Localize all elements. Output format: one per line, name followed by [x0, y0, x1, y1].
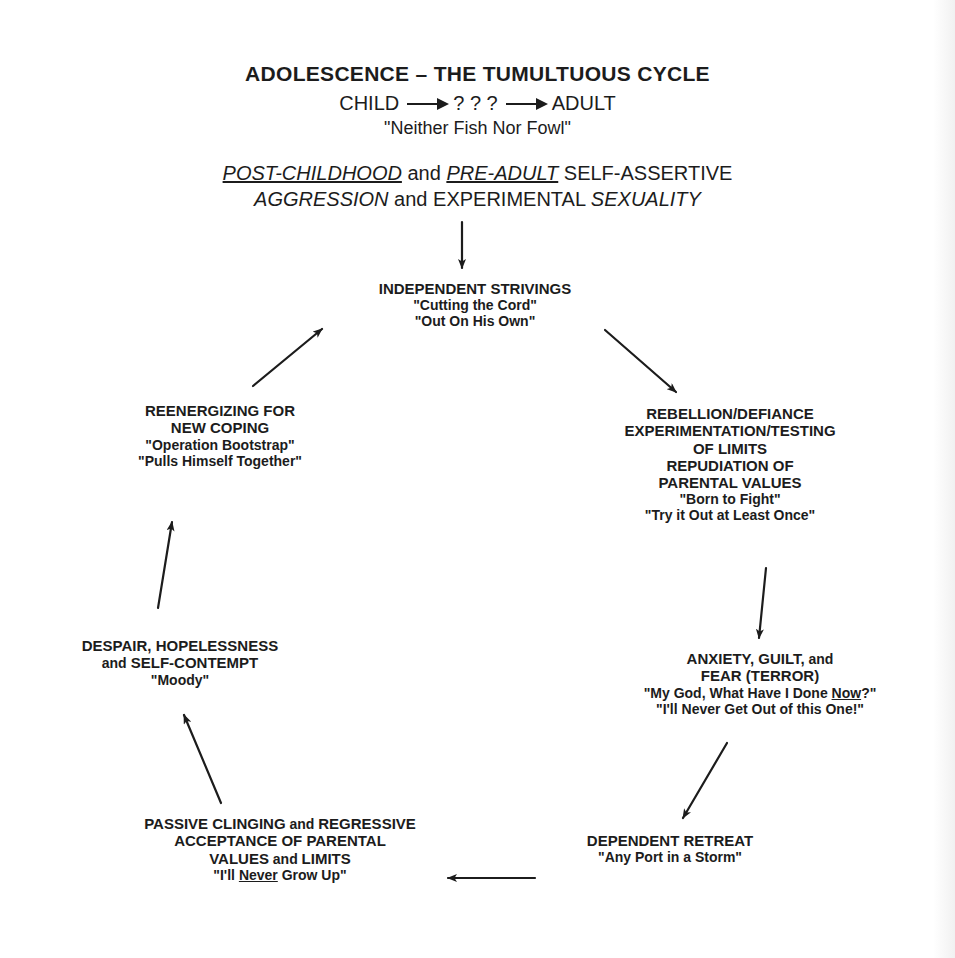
- post-childhood-term: POST-CHILDHOOD: [223, 162, 402, 184]
- sexuality-term: SEXUALITY: [591, 188, 701, 210]
- arrow-despair-to-reenergize-icon: [158, 522, 172, 608]
- node-quote: "Any Port in a Storm": [525, 849, 815, 865]
- heading-text: PASSIVE CLINGING: [144, 815, 285, 832]
- node-quote: "I'll Never Grow Up": [70, 867, 490, 883]
- heading-text: VALUES: [209, 850, 269, 867]
- anxiety-guilt-text: ANXIETY, GUILT,: [687, 650, 805, 667]
- node-quote: "Out On His Own": [310, 313, 640, 329]
- arrow-independent-to-rebellion-icon: [605, 330, 676, 392]
- arrow-anxiety-to-dependent-icon: [683, 743, 727, 818]
- node-anxiety-guilt-fear: ANXIETY, GUILT, and FEAR (TERROR) "My Go…: [565, 650, 955, 717]
- node-heading-line: ANXIETY, GUILT, and: [565, 650, 955, 667]
- quote-text: ?": [861, 685, 876, 701]
- emphasis-never: Never: [239, 867, 278, 883]
- aggression-term: AGGRESSION: [254, 188, 388, 210]
- right-arrow-icon: [506, 103, 544, 105]
- node-heading-line: DESPAIR, HOPELESSNESS: [20, 637, 340, 654]
- node-heading-line: PASSIVE CLINGING and REGRESSIVE: [70, 815, 490, 832]
- progression-end: ADULT: [552, 92, 616, 115]
- node-quote: "Operation Bootstrap": [80, 437, 360, 453]
- quote-text: "My God, What Have I Done: [644, 685, 832, 701]
- self-assertive-term: SELF-ASSERTIVE: [558, 162, 732, 184]
- node-heading: DEPENDENT RETREAT: [525, 832, 815, 849]
- arrow-reenergize-to-independent-icon: [253, 329, 322, 386]
- node-heading-line: NEW COPING: [80, 419, 360, 436]
- and-text: and: [102, 655, 127, 671]
- heading-text: SELF-CONTEMPT: [127, 654, 259, 671]
- subtitle-connector: and: [402, 162, 446, 184]
- arrow-rebellion-to-anxiety-icon: [759, 568, 766, 638]
- quote-text: "I'll: [213, 867, 239, 883]
- right-arrow-icon: [407, 103, 445, 105]
- progression-start: CHILD: [339, 92, 399, 115]
- node-quote: "Pulls Himself Together": [80, 453, 360, 469]
- experimental-term: and EXPERIMENTAL: [389, 188, 591, 210]
- node-heading-line: ACCEPTANCE OF PARENTAL: [70, 832, 490, 849]
- heading-text: LIMITS: [302, 850, 351, 867]
- node-reenergizing: REENERGIZING FOR NEW COPING "Operation B…: [80, 402, 360, 469]
- heading-text: REGRESSIVE: [318, 815, 416, 832]
- and-text: and: [805, 651, 834, 667]
- node-heading-line: EXPERIMENTATION/TESTING: [560, 422, 900, 439]
- pre-adult-term: PRE-ADULT: [446, 162, 558, 184]
- page-edge-shade: [933, 0, 955, 958]
- and-text: and: [286, 816, 319, 832]
- node-heading-line: REENERGIZING FOR: [80, 402, 360, 419]
- node-despair-hopelessness: DESPAIR, HOPELESSNESS and SELF-CONTEMPT …: [20, 637, 340, 688]
- node-passive-clinging: PASSIVE CLINGING and REGRESSIVE ACCEPTAN…: [70, 815, 490, 883]
- node-quote: "Born to Fight": [560, 491, 900, 507]
- node-heading-line: FEAR (TERROR): [565, 667, 955, 684]
- node-heading-line: VALUES and LIMITS: [70, 850, 490, 867]
- node-quote: "My God, What Have I Done Now?": [565, 685, 955, 701]
- node-heading-line: REPUDIATION OF: [560, 457, 900, 474]
- node-quote: "Cutting the Cord": [310, 297, 640, 313]
- node-quote: "I'll Never Get Out of this One!": [565, 701, 955, 717]
- node-dependent-retreat: DEPENDENT RETREAT "Any Port in a Storm": [525, 832, 815, 865]
- emphasis-now: Now: [832, 685, 862, 701]
- subtitle-line-2: AGGRESSION and EXPERIMENTAL SEXUALITY: [0, 186, 955, 212]
- tagline: "Neither Fish Nor Fowl": [0, 118, 955, 139]
- progression-middle: ? ? ?: [453, 92, 497, 115]
- node-heading-line: REBELLION/DEFIANCE: [560, 405, 900, 422]
- node-quote: "Moody": [20, 672, 340, 688]
- node-heading-line: and SELF-CONTEMPT: [20, 654, 340, 671]
- node-quote: "Try it Out at Least Once": [560, 507, 900, 523]
- diagram-title: ADOLESCENCE – THE TUMULTUOUS CYCLE: [0, 62, 955, 86]
- and-text: and: [269, 851, 302, 867]
- arrow-passive-to-despair-icon: [184, 715, 221, 803]
- node-rebellion-defiance: REBELLION/DEFIANCE EXPERIMENTATION/TESTI…: [560, 405, 900, 523]
- node-heading-line: OF LIMITS: [560, 440, 900, 457]
- subtitle-line-1: POST-CHILDHOOD and PRE-ADULT SELF-ASSERT…: [0, 160, 955, 186]
- child-to-adult-progression: CHILD ? ? ? ADULT: [0, 92, 955, 115]
- subtitle: POST-CHILDHOOD and PRE-ADULT SELF-ASSERT…: [0, 160, 955, 213]
- node-heading: INDEPENDENT STRIVINGS: [310, 280, 640, 297]
- node-heading-line: PARENTAL VALUES: [560, 474, 900, 491]
- node-independent-strivings: INDEPENDENT STRIVINGS "Cutting the Cord"…: [310, 280, 640, 329]
- quote-text: Grow Up": [278, 867, 347, 883]
